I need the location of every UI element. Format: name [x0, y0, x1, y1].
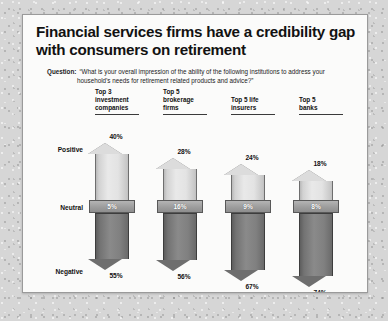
down-arrow-shaft-0	[95, 213, 129, 259]
column-header-3: Top 5 banks	[299, 96, 361, 112]
neutral-value-3: 8%	[311, 203, 321, 210]
down-arrow-head-1	[156, 260, 190, 271]
down-arrow-shaft-3	[299, 213, 333, 276]
column-header-0-line-2: companies	[95, 104, 157, 112]
column-rule-3	[299, 114, 343, 115]
axis-label-positive: Positive	[31, 146, 83, 153]
axis-label-negative: Negative	[31, 268, 83, 275]
neutral-band-2: 9%	[225, 200, 271, 213]
column-header-0-line-1: investment	[95, 96, 157, 104]
column-header-0-line-0: Top 3	[95, 88, 157, 96]
down-arrow-shaft-1	[163, 213, 197, 260]
column-rule-2	[231, 114, 275, 115]
up-arrow-head-2	[224, 164, 258, 175]
column-header-1-line-2: firms	[163, 104, 225, 112]
negative-value-0: 55%	[85, 272, 147, 279]
column-header-1-line-0: Top 5	[163, 88, 225, 96]
neutral-value-0: 5%	[107, 203, 117, 210]
up-arrow-head-0	[88, 143, 122, 154]
column-header-0: Top 3 investment companies	[95, 88, 157, 112]
column-header-1-line-1: brokerage	[163, 96, 225, 104]
negative-value-3: 74%	[289, 289, 351, 293]
column-header-2-line-0: Top 5 life	[231, 96, 293, 104]
positive-value-2: 24%	[221, 154, 283, 161]
column-header-2-line-1: insurers	[231, 104, 293, 112]
down-arrow-head-3	[292, 276, 326, 287]
neutral-band-0: 5%	[89, 200, 135, 213]
column-rule-1	[163, 114, 207, 115]
chart-plot-area: Positive Neutral Negative Top 3 investme…	[23, 15, 367, 292]
down-arrow-head-2	[224, 270, 258, 281]
up-arrow-shaft-0	[95, 154, 129, 204]
slide-card: Financial services firms have a credibil…	[22, 14, 368, 293]
up-arrow-head-3	[292, 170, 326, 181]
neutral-band-3: 8%	[293, 200, 339, 213]
column-header-1: Top 5 brokerage firms	[163, 88, 225, 112]
neutral-value-1: 16%	[173, 203, 186, 210]
up-arrow-shaft-1	[163, 169, 197, 204]
column-header-3-line-1: banks	[299, 104, 361, 112]
column-header-3-line-0: Top 5	[299, 96, 361, 104]
neutral-value-2: 9%	[243, 203, 253, 210]
axis-label-neutral: Neutral	[31, 204, 83, 211]
negative-value-2: 67%	[221, 283, 283, 290]
up-arrow-head-1	[156, 158, 190, 169]
down-arrow-head-0	[88, 259, 122, 270]
positive-value-3: 18%	[289, 160, 351, 167]
positive-value-1: 28%	[153, 148, 215, 155]
positive-value-0: 40%	[85, 133, 147, 140]
column-rule-0	[95, 114, 139, 115]
neutral-band-1: 16%	[157, 200, 203, 213]
negative-value-1: 56%	[153, 273, 215, 280]
column-header-2: Top 5 life insurers	[231, 96, 293, 112]
down-arrow-shaft-2	[231, 213, 265, 270]
